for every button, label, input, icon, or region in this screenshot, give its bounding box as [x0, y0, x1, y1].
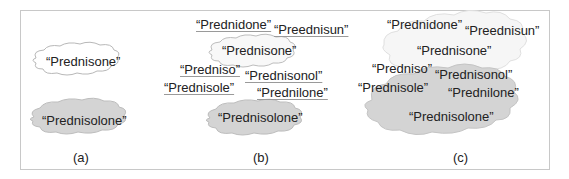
- word-prednidone: “Prednidone”: [387, 18, 462, 31]
- word-prednisonol: “Prednisonol”: [435, 68, 512, 81]
- word-preednisun: “Preednisun”: [274, 23, 348, 36]
- word-prednisolone: “Prednisolone”: [218, 111, 303, 124]
- word-prednidone: “Prednidone”: [196, 18, 271, 31]
- panel-label: (a): [73, 150, 89, 165]
- word-prednisonol: “Prednisonol”: [245, 69, 322, 82]
- word-prednilone: “Prednilone”: [448, 86, 519, 99]
- word-prednisolone: “Prednisolone”: [409, 110, 494, 123]
- word-prednisolone: “Prednisolone”: [42, 114, 127, 127]
- word-prednisole: “Prednisole”: [164, 81, 234, 94]
- word-prednisone: “Prednisone”: [46, 55, 120, 68]
- word-prednisone: “Prednisone”: [417, 44, 491, 57]
- panel-label: (c): [453, 150, 468, 165]
- word-prednilone: “Prednilone”: [257, 86, 328, 99]
- word-predniso: “Predniso”: [180, 63, 240, 76]
- word-predniso: “Predniso”: [372, 62, 432, 75]
- word-preednisun: “Preednisun”: [465, 24, 539, 37]
- panel-label: (b): [253, 150, 269, 165]
- word-prednisone: “Prednisone”: [222, 44, 296, 57]
- word-prednisole: “Prednisole”: [358, 81, 428, 94]
